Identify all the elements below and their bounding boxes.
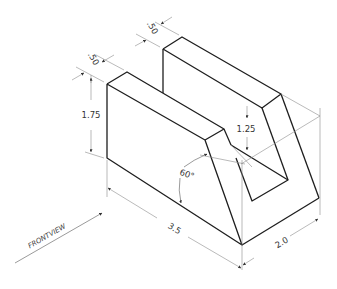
dimension-front-depth: .50: [72, 50, 124, 82]
object-outline: [107, 37, 319, 245]
dimension-notch-height: 1.25: [200, 94, 320, 270]
front-height-label: 1.75: [82, 110, 101, 120]
angle-label: 60°: [178, 167, 196, 182]
dimension-width: 2.0: [243, 219, 318, 265]
front-view-indicator: FRONTVIEW: [15, 213, 102, 263]
length-label: 3.5: [166, 221, 183, 236]
notch-height-label: 1.25: [237, 124, 256, 134]
isometric-drawing: .50 .50 1.75 1.25 60°: [0, 0, 337, 289]
dimension-length: 3.5: [107, 160, 241, 268]
front-depth-label: .50: [86, 50, 101, 67]
dimension-front-height: 1.75: [82, 75, 104, 158]
width-label: 2.0: [273, 235, 290, 250]
back-depth-label: .50: [145, 19, 160, 36]
dimension-angle: 60°: [178, 154, 207, 203]
